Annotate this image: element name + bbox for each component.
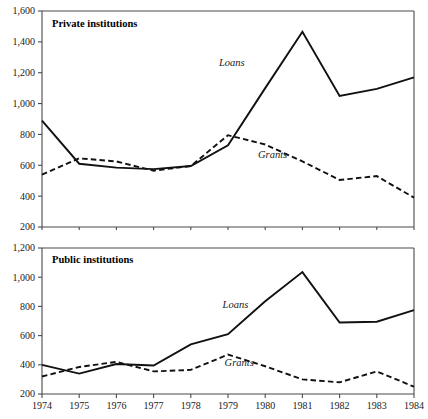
axis-spines xyxy=(42,248,414,394)
x-tick-label: 1976 xyxy=(106,400,126,411)
y-tick-label: 600 xyxy=(20,330,35,341)
figure-container: 2004006008001,0001,2001,4001,600Private … xyxy=(0,0,428,419)
series-label-grants: Grants xyxy=(258,149,287,160)
y-tick-label: 1,200 xyxy=(13,67,36,78)
x-tick-label: 1983 xyxy=(367,400,387,411)
panel-title-public: Public institutions xyxy=(52,254,133,265)
y-tick-label: 1,400 xyxy=(13,36,36,47)
two-panel-line-chart: 2004006008001,0001,2001,4001,600Private … xyxy=(0,0,428,419)
x-tick-label: 1982 xyxy=(330,400,350,411)
y-tick-label: 400 xyxy=(20,359,35,370)
x-tick-label: 1979 xyxy=(218,400,238,411)
y-tick-label: 200 xyxy=(20,388,35,399)
series-label-loans: Loans xyxy=(218,57,245,68)
y-tick-label: 1,000 xyxy=(13,272,36,283)
x-tick-label: 1980 xyxy=(255,400,275,411)
y-tick-label: 200 xyxy=(20,221,35,232)
series-label-loans: Loans xyxy=(222,299,249,310)
y-tick-label: 400 xyxy=(20,191,35,202)
y-tick-label: 800 xyxy=(20,301,35,312)
panel-title-private: Private institutions xyxy=(52,18,137,29)
y-tick-label: 1,200 xyxy=(13,242,36,253)
y-tick-label: 1,000 xyxy=(13,98,36,109)
series-line-loans xyxy=(42,32,414,169)
x-tick-label: 1977 xyxy=(144,400,164,411)
x-tick-label: 1974 xyxy=(32,400,52,411)
axis-spines xyxy=(42,11,414,227)
x-tick-label: 1984 xyxy=(404,400,424,411)
panel-public: 2004006008001,0001,200197419751976197719… xyxy=(13,242,425,411)
panel-private: 2004006008001,0001,2001,4001,600Private … xyxy=(13,5,415,232)
series-label-grants: Grants xyxy=(225,357,254,368)
x-tick-label: 1981 xyxy=(292,400,312,411)
y-tick-label: 800 xyxy=(20,129,35,140)
x-tick-label: 1975 xyxy=(69,400,89,411)
y-tick-label: 600 xyxy=(20,160,35,171)
y-tick-label: 1,600 xyxy=(13,5,36,16)
x-tick-label: 1978 xyxy=(181,400,201,411)
